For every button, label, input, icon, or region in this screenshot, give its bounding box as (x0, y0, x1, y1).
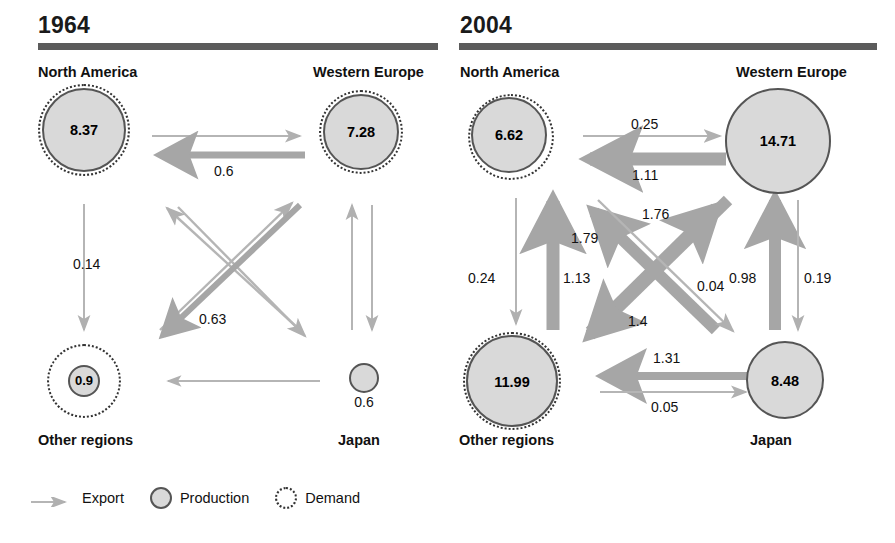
flow-arrow-na-to-japan-diag (178, 207, 305, 336)
flow-label-we-to-na-1964: 0.6 (214, 163, 233, 179)
flow-label-other-to-japan-2004: 0.05 (651, 399, 678, 415)
node-value-north-america-2004: 6.62 (471, 127, 547, 143)
node-label-other-regions-1964: Other regions (38, 432, 133, 448)
flow-label-na-to-japan-2004: 0.04 (697, 278, 724, 294)
panel-1964: 1964 (0, 0, 447, 543)
node-label-japan-1964: Japan (338, 432, 380, 448)
node-label-north-america-2004: North America (460, 64, 559, 80)
legend-item-production: Production (150, 487, 249, 509)
node-value-western-europe-1964: 7.28 (323, 124, 399, 140)
flow-label-we-to-na-2004: 1.11 (632, 167, 658, 183)
legend-label-export: Export (82, 490, 124, 506)
dotted-circle-icon (275, 487, 297, 509)
flow-label-na-to-we-2004: 0.25 (631, 116, 658, 132)
legend-label-demand: Demand (305, 490, 360, 506)
production-circle-japan-1964 (349, 363, 379, 393)
filled-circle-icon (150, 487, 172, 509)
flow-label-japan-to-other-2004: 1.31 (653, 350, 680, 366)
node-label-japan-2004: Japan (750, 432, 792, 448)
trade-flow-diagram: 1964 (0, 0, 895, 543)
node-value-japan-1964: 0.6 (344, 394, 384, 410)
panel-2004: 2004 (448, 0, 895, 543)
flow-arrows-1964 (0, 0, 447, 543)
flow-label-japan-to-we-2004: 0.98 (729, 270, 756, 286)
node-label-other-regions-2004: Other regions (459, 432, 554, 448)
export-arrow-icon (30, 493, 74, 503)
node-label-western-europe-1964: Western Europe (313, 64, 424, 80)
node-value-other-regions-2004: 11.99 (466, 374, 558, 390)
node-value-north-america-1964: 8.37 (42, 122, 126, 138)
flow-label-we-to-japan-2004: 0.19 (804, 270, 831, 286)
flow-label-na-to-other-1964: 0.14 (73, 256, 100, 272)
legend-item-export: Export (30, 490, 124, 506)
flow-label-other-to-na-2004: 1.13 (563, 270, 590, 286)
node-value-japan-2004: 8.48 (746, 373, 824, 389)
legend-item-demand: Demand (275, 487, 360, 509)
flow-label-japan-to-na-2004: 1.79 (571, 230, 598, 246)
node-value-other-regions-1964: 0.9 (64, 373, 104, 388)
node-value-western-europe-2004: 14.71 (725, 133, 831, 149)
flow-label-na-to-other-2004: 0.24 (468, 270, 495, 286)
flow-label-other-to-we-2004: 1.76 (642, 206, 669, 222)
legend-label-production: Production (180, 490, 249, 506)
node-label-north-america-1964: North America (38, 64, 137, 80)
flow-label-we-to-other-2004: 1.4 (628, 313, 647, 329)
node-label-western-europe-2004: Western Europe (736, 64, 847, 80)
flow-label-we-to-other-1964: 0.63 (199, 311, 226, 327)
legend-1964: Export Production Demand (30, 487, 386, 509)
